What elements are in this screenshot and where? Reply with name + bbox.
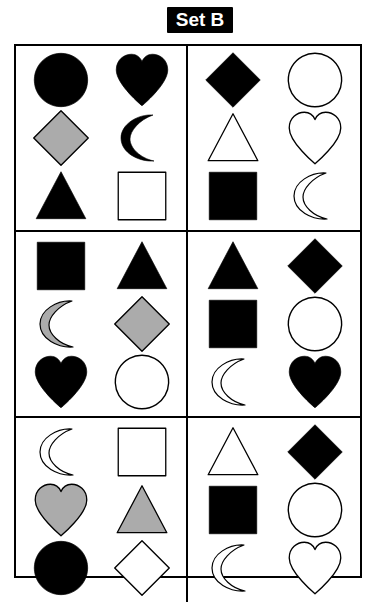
shape-crescent-white <box>274 167 356 225</box>
triangle-icon <box>204 425 262 479</box>
shape-circle-white <box>274 481 356 539</box>
triangle-icon <box>32 169 90 223</box>
shape-square-black <box>192 167 274 225</box>
crescent-icon <box>117 109 167 167</box>
shape-crescent-white <box>192 353 274 411</box>
crescent-icon <box>290 167 340 225</box>
diamond-icon <box>113 539 171 597</box>
grid-cell-middle-left <box>16 232 188 418</box>
triangle-icon <box>204 239 262 293</box>
circle-icon <box>113 353 171 411</box>
shape-circle-black <box>20 51 101 109</box>
shape-circle-white <box>101 353 182 411</box>
grid-cell-bottom-left <box>16 418 188 602</box>
shape-crescent-white <box>192 539 274 597</box>
diamond-icon <box>32 109 90 167</box>
diamond-icon <box>204 51 262 109</box>
heart-icon <box>31 482 91 538</box>
crescent-icon <box>36 423 86 481</box>
heart-icon <box>285 110 345 166</box>
crescent-icon <box>36 295 86 353</box>
shape-crescent-gray <box>20 295 101 353</box>
shape-heart-white <box>274 109 356 167</box>
shape-heart-black <box>20 353 101 411</box>
shape-heart-gray <box>20 481 101 539</box>
diamond-icon <box>286 237 344 295</box>
heart-icon <box>112 52 172 108</box>
diamond-icon <box>286 423 344 481</box>
circle-icon <box>286 51 344 109</box>
heart-icon <box>285 540 345 596</box>
shape-heart-black <box>274 353 356 411</box>
square-icon <box>206 169 260 223</box>
shape-square-black <box>20 237 101 295</box>
shape-diamond-black <box>192 51 274 109</box>
grid-cell-middle-right <box>188 232 360 418</box>
shape-diamond-gray <box>101 295 182 353</box>
shape-triangle-black <box>192 237 274 295</box>
shape-circle-black <box>20 539 101 597</box>
shape-triangle-black <box>101 237 182 295</box>
shape-triangle-white <box>192 423 274 481</box>
shape-diamond-white <box>101 539 182 597</box>
shape-diamond-black <box>274 237 356 295</box>
shape-crescent-black <box>101 109 182 167</box>
shape-diamond-gray <box>20 109 101 167</box>
square-icon <box>115 425 169 479</box>
triangle-icon <box>113 483 171 537</box>
shape-square-black <box>192 295 274 353</box>
triangle-icon <box>204 111 262 165</box>
square-icon <box>206 483 260 537</box>
circle-icon <box>32 539 90 597</box>
circle-icon <box>286 481 344 539</box>
shape-triangle-white <box>192 109 274 167</box>
heart-icon <box>31 354 91 410</box>
set-title-badge: Set B <box>167 7 233 33</box>
grid-cell-top-right <box>188 46 360 232</box>
diamond-icon <box>113 295 171 353</box>
shape-heart-white <box>274 539 356 597</box>
shape-heart-black <box>101 51 182 109</box>
shape-square-white <box>101 423 182 481</box>
square-icon <box>206 297 260 351</box>
square-icon <box>115 169 169 223</box>
circle-icon <box>286 295 344 353</box>
shape-grid <box>14 44 362 578</box>
grid-cell-top-left <box>16 46 188 232</box>
shape-circle-white <box>274 51 356 109</box>
shape-square-white <box>101 167 182 225</box>
triangle-icon <box>113 239 171 293</box>
square-icon <box>34 239 88 293</box>
shape-triangle-gray <box>101 481 182 539</box>
shape-square-black <box>192 481 274 539</box>
circle-icon <box>32 51 90 109</box>
crescent-icon <box>208 353 258 411</box>
grid-cell-bottom-right <box>188 418 360 602</box>
crescent-icon <box>208 539 258 597</box>
heart-icon <box>285 354 345 410</box>
shape-triangle-black <box>20 167 101 225</box>
shape-crescent-white <box>20 423 101 481</box>
set-title-label: Set B <box>176 10 225 29</box>
shape-diamond-black <box>274 423 356 481</box>
shape-circle-white <box>274 295 356 353</box>
